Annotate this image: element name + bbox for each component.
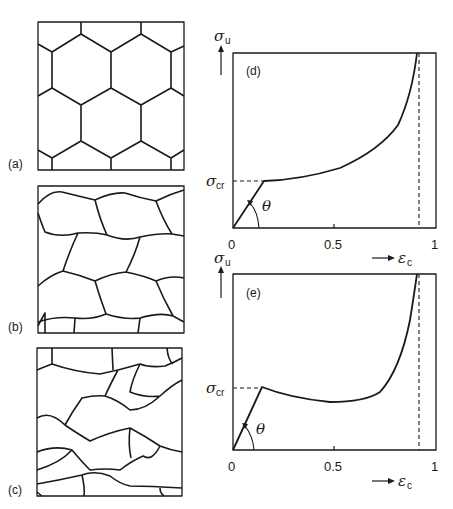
x-tick-05-d: 0.5 <box>324 237 342 252</box>
panel-a-honeycomb <box>38 22 184 170</box>
x-axis-label-sub-e: c <box>407 480 412 491</box>
y-axis-label-sub-d: u <box>225 35 231 46</box>
theta-label-d: θ <box>262 197 271 215</box>
theta-arc-d <box>250 203 259 228</box>
x-tick-0-e: 0 <box>228 459 235 474</box>
stress-strain-curve-d <box>233 53 417 228</box>
panel-label-a: (a) <box>8 157 23 171</box>
x-axis-label-d: ε <box>398 249 406 267</box>
x-axis-label-e: ε <box>398 472 406 490</box>
x-tick-05-e: 0.5 <box>324 459 342 474</box>
panel-b-deformed-cells <box>38 186 184 333</box>
panel-label-b: (b) <box>8 320 23 334</box>
sigma-cr-sub-d: cr <box>216 180 225 191</box>
panel-label-d: (d) <box>246 64 261 78</box>
sigma-cr-sub-e: cr <box>216 387 225 398</box>
x-tick-1-d: 1 <box>431 237 438 252</box>
y-axis-label-e: σ <box>214 249 225 267</box>
x-axis-label-sub-d: c <box>407 257 412 268</box>
x-tick-1-e: 1 <box>431 459 438 474</box>
x-tick-0-d: 0 <box>228 237 235 252</box>
y-axis-label-sub-e: u <box>225 257 231 268</box>
panel-label-c: (c) <box>8 483 22 497</box>
figure: (a) (b) (c) (d) (e) σ u σ cr θ 0 0.5 1 ε… <box>0 0 453 509</box>
theta-label-e: θ <box>256 420 265 438</box>
panel-c-collapsed-cells <box>37 348 182 496</box>
theta-arc-e <box>245 426 254 450</box>
panel-label-e: (e) <box>246 286 261 300</box>
y-axis-label-d: σ <box>214 27 225 45</box>
